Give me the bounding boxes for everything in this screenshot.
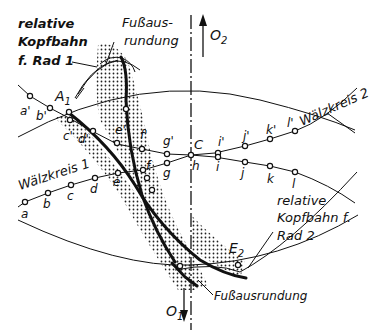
label-a-prime: a' [20, 104, 31, 118]
label-b: b [43, 197, 51, 211]
leader-line-wheel1-path [72, 62, 97, 67]
point-f-prime [139, 146, 144, 151]
label-d: d [90, 182, 98, 196]
label-pitch-circle-1: Wälzkreis 1 [16, 156, 91, 193]
label-relative-head-path-wheel1: relative Kopfbahn f. Rad 1 [18, 16, 92, 68]
point-flank1-c [177, 263, 182, 268]
point-c-prime [67, 117, 72, 122]
point-g [164, 160, 169, 165]
label-i: i [216, 160, 220, 174]
point-d [92, 175, 97, 180]
point-j [242, 159, 247, 164]
label-j: j [239, 166, 245, 180]
label-c: c [67, 189, 74, 203]
point-c [188, 152, 193, 157]
point-i [215, 154, 220, 159]
label-g: g [163, 166, 171, 180]
labels-wheel2-points: a' b' c' d' e' f' g' i' j' k' l' [20, 104, 294, 149]
point-A1 [66, 109, 71, 114]
label-k-prime: k' [266, 123, 276, 137]
point-a [22, 199, 27, 204]
label-o1: O1 [166, 303, 183, 322]
label-h: h [192, 159, 200, 173]
point-E2 [235, 262, 240, 267]
point-flank2-a [123, 106, 128, 111]
label-root-fillet-top: Fußaus- rundung [122, 15, 179, 48]
gear-meshing-diagram: relative Kopfbahn f. Rad 1 Fußaus- rundu… [0, 0, 382, 334]
label-c-prime: c' [63, 129, 73, 143]
point-flank1-a [144, 175, 149, 180]
point-e-prime [114, 140, 119, 145]
label-A1: A1 [54, 88, 71, 107]
point-j-prime [242, 143, 247, 148]
label-a: a [21, 207, 28, 221]
label-root-fillet-bottom: Fußausrundung [214, 289, 308, 303]
point-g-prime [164, 151, 169, 156]
label-j-prime: j' [241, 129, 250, 143]
label-f-prime: f' [140, 128, 148, 142]
label-d-prime: d' [78, 132, 89, 146]
point-a-prime [27, 93, 32, 98]
point-b-prime [47, 105, 52, 110]
label-k: k [267, 172, 275, 186]
label-e-prime: e' [115, 123, 126, 137]
label-i-prime: i' [218, 135, 225, 149]
label-e: e [113, 175, 120, 189]
label-g-prime: g' [163, 134, 174, 148]
label-pitch-point-C: C [194, 137, 204, 152]
point-k-prime [267, 136, 272, 141]
point-d-prime [90, 128, 95, 133]
point-c-low [68, 182, 73, 187]
point-k [267, 163, 272, 168]
label-l-prime: l' [287, 116, 294, 130]
o2-arrowhead-icon [199, 14, 207, 26]
label-relative-head-path-wheel2: relative Kopfbahn f. Rad 2 [277, 193, 355, 243]
label-b-prime: b' [36, 109, 47, 123]
point-flank1-b [149, 187, 154, 192]
label-o2: O2 [210, 27, 227, 46]
label-l: l [292, 177, 296, 191]
point-l [292, 169, 297, 174]
point-f [140, 167, 145, 172]
leader-line-wheel2-path [248, 232, 273, 268]
point-b [45, 190, 50, 195]
